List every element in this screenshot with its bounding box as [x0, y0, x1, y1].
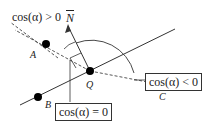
point-a	[42, 40, 50, 48]
normal-arrowhead-icon	[65, 24, 71, 33]
dashed-line-qa	[15, 30, 90, 71]
cos-negative-box: cos(α) < 0	[145, 73, 202, 91]
normal-label: N	[66, 12, 74, 24]
point-a-label: A	[30, 50, 36, 60]
point-b	[34, 93, 42, 101]
point-q-label: Q	[86, 80, 93, 90]
cos-positive-label: cos(α) > 0	[12, 11, 61, 23]
normal-vector	[68, 26, 90, 71]
point-b-label: B	[45, 100, 51, 110]
point-c-label: C	[159, 92, 166, 102]
angle-arc-a	[64, 42, 75, 49]
cos-zero-box: cos(α) = 0	[55, 103, 112, 121]
point-q	[86, 67, 94, 75]
